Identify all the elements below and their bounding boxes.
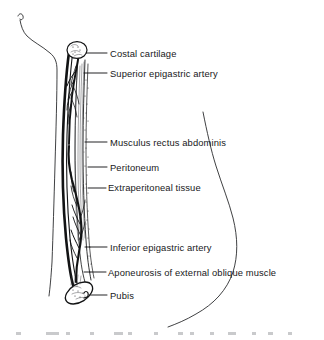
costal-cartilage-section [67,42,87,59]
anatomical-figure: Costal cartilage Superior epigastric art… [0,0,324,340]
label-pubis: Pubis [110,290,134,301]
label-aponeurosis-of-external-oblique-muscle: Aponeurosis of external oblique muscle [108,267,276,278]
label-inferior-epigastric-artery: Inferior epigastric artery [110,242,212,253]
figure-canvas: Costal cartilage Superior epigastric art… [0,0,324,340]
label-extraperitoneal-tissue: Extraperitoneal tissue [108,182,201,193]
label-peritoneum: Peritoneum [110,162,159,173]
label-costal-cartilage: Costal cartilage [110,48,177,59]
label-musculus-rectus-abdominis: Musculus rectus abdominis [110,137,226,148]
label-superior-epigastric-artery: Superior epigastric artery [110,68,218,79]
